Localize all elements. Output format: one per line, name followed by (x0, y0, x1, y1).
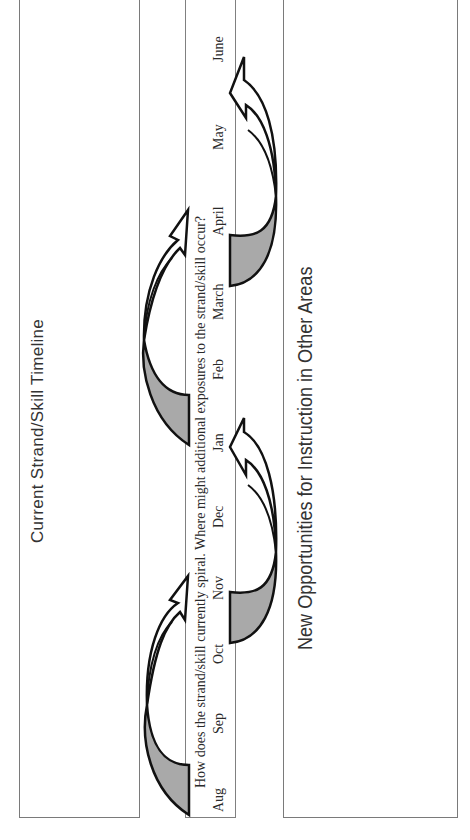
spiral-arrows (0, 0, 470, 840)
curved-arrow-icon (230, 57, 276, 286)
curved-arrow-icon (143, 210, 189, 445)
curved-arrow-icon (230, 418, 276, 643)
curved-arrow-icon (145, 576, 189, 815)
